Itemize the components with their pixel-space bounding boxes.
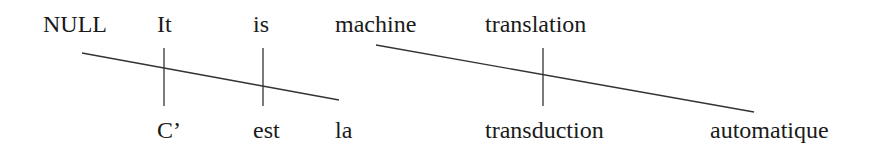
target-word-la: la xyxy=(335,118,352,142)
source-word-it: It xyxy=(157,12,172,36)
source-word-is: is xyxy=(253,12,269,36)
alignment-machine-automatique xyxy=(376,45,754,112)
target-word-automatique: automatique xyxy=(710,118,829,142)
source-word-translation: translation xyxy=(485,12,586,36)
source-word-null: NULL xyxy=(43,12,107,36)
target-word-c: C’ xyxy=(157,118,181,142)
target-word-transduction: transduction xyxy=(485,118,604,142)
alignment-null-la xyxy=(82,53,339,100)
source-word-machine: machine xyxy=(335,12,416,36)
target-word-est: est xyxy=(253,118,280,142)
